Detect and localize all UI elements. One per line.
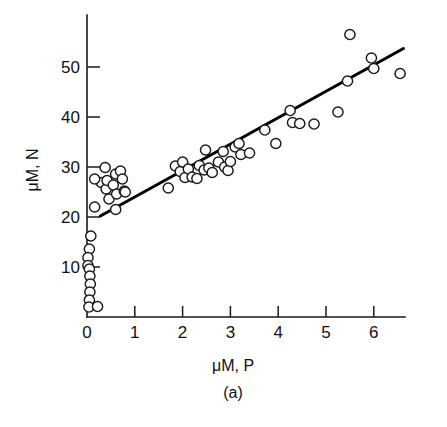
data-point-group <box>83 29 405 312</box>
data-point <box>260 125 270 135</box>
data-point <box>395 68 405 78</box>
data-point <box>218 146 228 156</box>
data-point <box>86 231 96 241</box>
data-point <box>117 174 127 184</box>
data-point <box>111 204 121 214</box>
x-axis-ticks <box>135 306 374 317</box>
scatter-figure: 0123456 1020304050 μM, P μM, N (a) <box>0 0 447 427</box>
data-point <box>100 162 110 172</box>
data-point <box>92 301 102 311</box>
data-point <box>345 29 355 39</box>
x-tick-label: 3 <box>226 323 235 342</box>
y-tick-label: 40 <box>61 108 80 127</box>
data-point <box>295 118 305 128</box>
data-point <box>285 105 295 115</box>
x-tick-label: 5 <box>321 323 330 342</box>
data-point <box>192 173 202 183</box>
y-tick-label: 20 <box>61 208 80 227</box>
data-point <box>207 167 217 177</box>
data-point <box>333 107 343 117</box>
y-tick-label: 30 <box>61 158 80 177</box>
data-point <box>200 145 210 155</box>
data-point <box>366 53 376 63</box>
y-tick-label: 50 <box>61 58 80 77</box>
data-point <box>225 156 235 166</box>
data-point <box>309 119 319 129</box>
data-point <box>234 138 244 148</box>
axes-group <box>87 15 405 317</box>
y-tick-label: 10 <box>61 258 80 277</box>
data-point <box>90 174 100 184</box>
x-tick-label: 0 <box>82 323 91 342</box>
y-axis-tick-labels: 1020304050 <box>61 58 80 277</box>
regression-line <box>100 49 403 217</box>
scatter-plot-svg: 0123456 1020304050 μM, P μM, N (a) <box>0 0 447 427</box>
data-point <box>90 202 100 212</box>
data-point <box>120 187 130 197</box>
data-point <box>369 63 379 73</box>
data-point <box>342 76 352 86</box>
data-point <box>163 183 173 193</box>
x-tick-label: 4 <box>273 323 282 342</box>
x-tick-label: 2 <box>178 323 187 342</box>
x-axis-title: μM, P <box>212 357 254 374</box>
figure-caption: (a) <box>223 384 243 401</box>
data-point <box>244 148 254 158</box>
x-tick-label: 1 <box>130 323 139 342</box>
data-point <box>271 138 281 148</box>
y-axis-title: μM, N <box>24 149 41 192</box>
x-tick-label: 6 <box>369 323 378 342</box>
x-axis-tick-labels: 0123456 <box>82 323 378 342</box>
